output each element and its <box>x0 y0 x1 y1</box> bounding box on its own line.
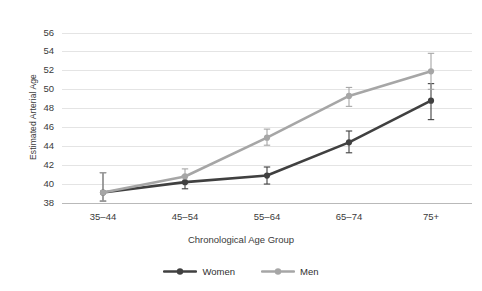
data-point-women <box>182 179 188 185</box>
x-axis-line <box>62 203 472 204</box>
y-tick-label: 44 <box>18 141 54 151</box>
data-point-men <box>264 135 270 141</box>
series-layer <box>62 23 472 203</box>
y-tick-label: 56 <box>18 28 54 38</box>
data-point-men <box>182 173 188 179</box>
y-tick-label: 50 <box>18 84 54 94</box>
y-axis-title: Estimated Arterial Age <box>28 32 38 202</box>
y-tick-label: 40 <box>18 179 54 189</box>
plot-area <box>62 23 472 203</box>
legend-swatch-icon <box>163 266 197 277</box>
data-point-men <box>100 189 106 195</box>
legend-label: Men <box>300 267 318 277</box>
x-tick-label: 65–74 <box>309 212 389 222</box>
chart-container: Estimated Arterial Age 38404244464850525… <box>0 0 482 291</box>
x-tick-label: 55–64 <box>227 212 307 222</box>
chart-legend: WomenMen <box>0 266 482 277</box>
legend-swatch-icon <box>261 266 295 277</box>
y-tick-label: 42 <box>18 160 54 170</box>
legend-item-men[interactable]: Men <box>261 266 318 277</box>
y-tick-label: 38 <box>18 198 54 208</box>
x-tick-label: 45–54 <box>145 212 225 222</box>
x-tick-label: 35–44 <box>63 212 143 222</box>
y-tick-label: 52 <box>18 65 54 75</box>
legend-label: Women <box>202 267 235 277</box>
y-tick-label: 54 <box>18 46 54 56</box>
data-point-women <box>346 139 352 145</box>
legend-item-women[interactable]: Women <box>163 266 235 277</box>
y-tick-label: 48 <box>18 103 54 113</box>
x-axis-title: Chronological Age Group <box>0 234 482 245</box>
data-point-men <box>428 68 434 74</box>
data-point-men <box>346 93 352 99</box>
data-point-women <box>264 172 270 178</box>
y-tick-label: 46 <box>18 122 54 132</box>
x-tick-label: 75+ <box>391 212 471 222</box>
data-point-women <box>428 98 434 104</box>
